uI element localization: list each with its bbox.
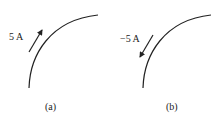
panel-b [140, 15, 211, 88]
caption-b: (b) [166, 101, 178, 112]
diagram-canvas [0, 0, 222, 120]
panel-a [29, 15, 98, 88]
current-label-b: −5 A [120, 33, 140, 44]
wire-curve-a [29, 15, 98, 88]
caption-a: (a) [45, 101, 56, 112]
wire-curve-b [143, 15, 211, 88]
current-label-a: 5 A [9, 31, 23, 42]
